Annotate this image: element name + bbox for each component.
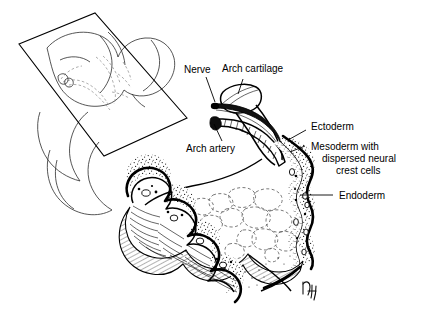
crest-cell-a2 bbox=[170, 215, 178, 221]
crest-cell-r4 bbox=[294, 219, 299, 226]
crest-dot-a2 bbox=[155, 191, 158, 194]
crest-cell-a4 bbox=[219, 262, 226, 268]
crest-cell-r1 bbox=[289, 169, 294, 176]
crest-dot-a3 bbox=[151, 185, 153, 187]
pharyngeal-arch-figure: Nerve Arch cartilage Arch artery Ectoder… bbox=[0, 0, 435, 322]
crest-dot-a6 bbox=[193, 234, 195, 236]
crest-cell-r6 bbox=[302, 249, 306, 255]
crest-dot-a4 bbox=[167, 211, 170, 214]
crest-cell-r2 bbox=[303, 193, 308, 199]
crest-dot-a5 bbox=[181, 214, 184, 217]
crest-cell-a1 bbox=[142, 190, 150, 196]
label-ectoderm: Ectoderm bbox=[311, 121, 354, 132]
crest-dot-r2 bbox=[295, 199, 297, 201]
label-arch-cartilage: Arch cartilage bbox=[222, 63, 284, 74]
crest-dot-a9 bbox=[230, 261, 232, 263]
label-mesoderm-line2: dispersed neural bbox=[322, 153, 396, 164]
crest-cell-r5 bbox=[304, 229, 309, 235]
crest-cell-r3 bbox=[305, 202, 309, 208]
crest-dot-r1 bbox=[295, 175, 298, 178]
crest-dot-a8 bbox=[216, 258, 218, 260]
crest-dot-a7 bbox=[207, 237, 210, 240]
diagram-canvas: Nerve Arch cartilage Arch artery Ectoder… bbox=[0, 0, 435, 322]
crest-dot-r3 bbox=[304, 213, 306, 215]
label-nerve: Nerve bbox=[184, 64, 211, 75]
crest-cell-a3 bbox=[196, 238, 204, 244]
crest-dot-a1 bbox=[138, 188, 141, 191]
label-arch-artery: Arch artery bbox=[186, 143, 235, 154]
label-mesoderm-line3: crest cells bbox=[336, 165, 380, 176]
label-mesoderm-line1: Mesoderm with bbox=[311, 141, 379, 152]
crest-dot-r5 bbox=[294, 188, 296, 190]
label-endoderm: Endoderm bbox=[339, 190, 385, 201]
nerve-cut-end bbox=[211, 103, 219, 109]
